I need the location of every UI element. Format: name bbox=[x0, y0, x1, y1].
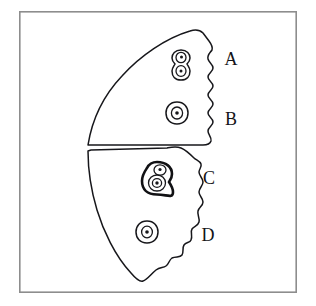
cell-a-doublet bbox=[172, 50, 190, 80]
cell-c-upper-nucleus bbox=[158, 168, 161, 171]
cell-b-nucleus bbox=[175, 111, 179, 115]
cell-c-cluster bbox=[142, 162, 173, 196]
cell-c-lower-nucleus bbox=[155, 181, 158, 184]
cell-a-upper-nucleus bbox=[180, 56, 183, 59]
cell-d-single bbox=[136, 221, 158, 243]
region-label-a: A bbox=[225, 49, 238, 69]
cell-b-single bbox=[166, 102, 188, 124]
cell-d-nucleus bbox=[145, 230, 149, 234]
region-label-c: C bbox=[203, 168, 215, 188]
figure-container: A B C D bbox=[0, 0, 316, 306]
region-label-d: D bbox=[202, 225, 215, 245]
cell-a-lower-nucleus bbox=[180, 70, 183, 73]
diagram-canvas: A B C D bbox=[0, 0, 316, 306]
region-label-b: B bbox=[225, 109, 237, 129]
